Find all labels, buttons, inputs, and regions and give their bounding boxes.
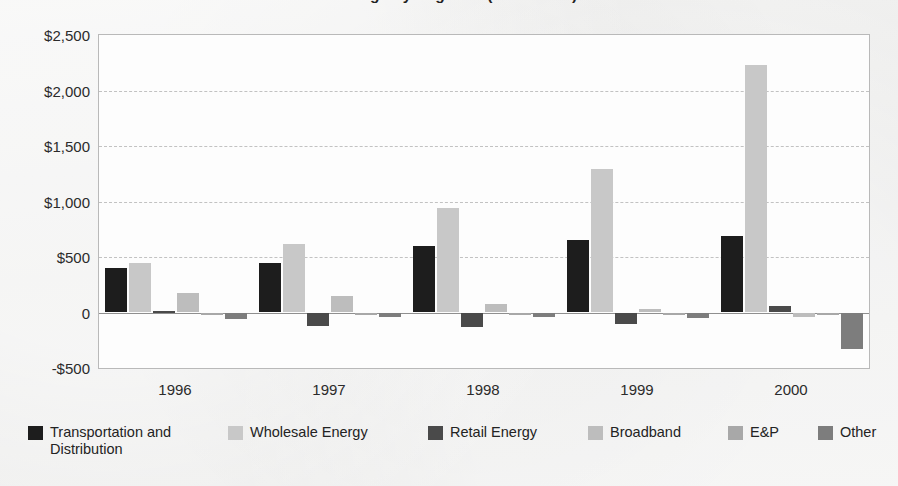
bar [379,313,401,318]
y-tick-label: -$500 [6,360,90,377]
y-tick-label: $1,000 [6,193,90,210]
bar [485,304,507,313]
legend-swatch-icon [428,426,443,440]
bar [769,306,791,313]
bar [817,313,839,315]
y-tick-label: 0 [6,304,90,321]
bar [461,313,483,327]
x-tick-label: 2000 [774,381,807,398]
legend-item[interactable]: Transportation and Distribution [28,424,188,458]
bar [177,293,199,312]
bar-chart-figure: Earnings by Segment (1996–2000) $2,500$2… [0,0,898,486]
bar [663,313,685,315]
bar [745,65,767,313]
bar [413,246,435,313]
legend-swatch-icon [818,426,833,440]
legend-swatch-icon [228,426,243,440]
bar [793,313,815,317]
bar [509,313,531,315]
chart-legend: Transportation and DistributionWholesale… [28,424,888,476]
y-axis-labels: $2,500$2,000$1,500$1,000$5000-$500 [0,34,90,369]
y-tick-label: $2,500 [6,27,90,44]
bar [437,208,459,312]
bar [201,313,223,315]
legend-item[interactable]: Wholesale Energy [228,424,398,441]
bar [331,296,353,313]
x-axis-labels: 19961997199819992000 [98,381,870,405]
bar [841,313,863,350]
bar [591,169,613,312]
bar [721,236,743,313]
bar [307,313,329,326]
x-tick-label: 1999 [620,381,653,398]
legend-swatch-icon [588,426,603,440]
legend-swatch-icon [728,426,743,440]
bar [639,309,661,312]
legend-label: Broadband [610,424,681,441]
y-tick-label: $2,000 [6,82,90,99]
legend-item[interactable]: E&P [728,424,788,441]
bar [105,268,127,312]
legend-label: Other [840,424,876,441]
bar [355,313,377,315]
bar [225,313,247,319]
chart-title: Earnings by Segment (1996–2000) [0,0,898,4]
legend-label: E&P [750,424,779,441]
legend-label: Retail Energy [450,424,537,441]
bar [283,244,305,313]
legend-item[interactable]: Other [818,424,888,441]
legend-label: Wholesale Energy [250,424,368,441]
bar [153,311,175,313]
y-tick-label: $1,500 [6,138,90,155]
bar [129,263,151,313]
legend-item[interactable]: Retail Energy [428,424,558,441]
legend-item[interactable]: Broadband [588,424,708,441]
x-tick-label: 1998 [466,381,499,398]
legend-label: Transportation and Distribution [50,424,188,458]
bar [687,313,709,319]
x-tick-label: 1997 [312,381,345,398]
x-tick-label: 1996 [158,381,191,398]
bar [533,313,555,317]
bar [567,240,589,312]
legend-swatch-icon [28,426,43,440]
bar [259,263,281,313]
bar [615,313,637,324]
y-tick-label: $500 [6,249,90,266]
plot-area [98,34,870,369]
